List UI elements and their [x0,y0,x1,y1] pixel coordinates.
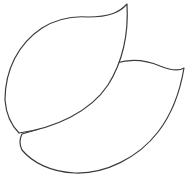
leaves-illustration [0,0,188,183]
leaves-drawing [0,0,188,183]
